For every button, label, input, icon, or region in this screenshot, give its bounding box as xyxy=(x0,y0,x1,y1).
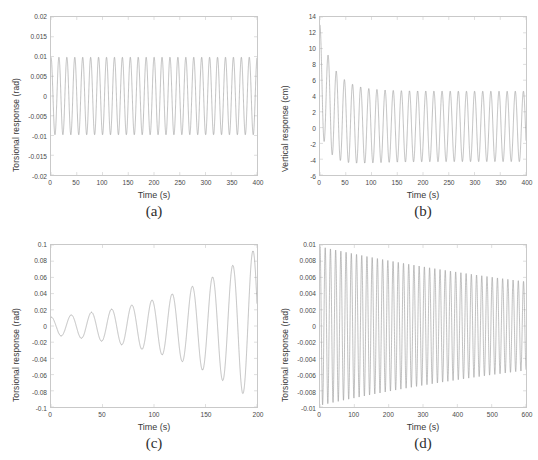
y-tick-label: 0.01 xyxy=(303,241,316,248)
x-tick-label: 200 xyxy=(148,179,159,186)
x-tick-label: 50 xyxy=(72,179,79,186)
x-tick-label: 0 xyxy=(317,411,321,418)
y-tick-label: 0.006 xyxy=(299,273,316,280)
subplot-a: 0.020.0150.010.0050-0.005-0.01-0.015-0.0… xyxy=(0,0,269,230)
y-tick-label: 0.02 xyxy=(34,306,47,313)
x-axis-label-d: Time (s) xyxy=(319,422,527,432)
y-tick-label: -4 xyxy=(310,157,316,164)
y-tick-label: 0 xyxy=(312,323,316,330)
y-tick-label: 0.008 xyxy=(299,257,316,264)
y-tick-label: 6 xyxy=(312,77,316,84)
waveform-line xyxy=(320,25,526,163)
x-tick-label: 200 xyxy=(383,411,394,418)
x-tick-label: 150 xyxy=(391,179,402,186)
axes-box-a xyxy=(50,16,258,176)
y-tick-label: -0.015 xyxy=(28,153,47,160)
x-tick-label: 400 xyxy=(521,179,532,186)
x-tick-label: 350 xyxy=(226,179,237,186)
y-tick-label: -0.08 xyxy=(32,388,47,395)
waveform-line xyxy=(320,247,526,405)
x-axis-label-b: Time (s) xyxy=(319,190,527,200)
y-tick-label: -0.06 xyxy=(32,372,47,379)
x-tick-label: 200 xyxy=(252,411,263,418)
x-tick-label: 0 xyxy=(48,179,52,186)
y-tick-label: 0 xyxy=(312,125,316,132)
y-tick-label: 0.02 xyxy=(34,13,47,20)
y-tick-label: 2 xyxy=(312,109,316,116)
axes-box-c xyxy=(50,244,258,408)
y-tick-label: 12 xyxy=(309,29,316,36)
y-tick-label: -0.1 xyxy=(36,405,47,412)
y-axis-label-a: Torsional response (rad) xyxy=(11,78,21,172)
y-tick-label: 0.005 xyxy=(30,73,47,80)
y-axis-label-c: Torsional response (rad) xyxy=(11,308,21,402)
y-tick-label: 0.004 xyxy=(299,290,316,297)
x-tick-label: 400 xyxy=(252,179,263,186)
x-tick-label: 200 xyxy=(417,179,428,186)
x-tick-label: 350 xyxy=(495,179,506,186)
y-tick-label: -2 xyxy=(310,141,316,148)
y-tick-label: -0.01 xyxy=(32,133,47,140)
x-tick-label: 600 xyxy=(521,411,532,418)
x-tick-label: 300 xyxy=(469,179,480,186)
x-tick-label: 0 xyxy=(48,411,52,418)
x-tick-label: 300 xyxy=(417,411,428,418)
panel-caption-c: (c) xyxy=(50,435,258,452)
x-tick-label: 500 xyxy=(487,411,498,418)
panel-caption-d: (d) xyxy=(319,435,527,452)
y-tick-label: 14 xyxy=(309,13,316,20)
x-axis-label-c: Time (s) xyxy=(50,422,258,432)
x-tick-label: 250 xyxy=(174,179,185,186)
x-tick-label: 50 xyxy=(341,179,348,186)
waveform-svg-b xyxy=(320,17,526,175)
subplot-c: 0.10.080.060.040.020-0.02-0.04-0.06-0.08… xyxy=(0,230,269,460)
y-axis-ticks-d: 0.010.0080.0060.0040.0020-0.002-0.004-0.… xyxy=(272,244,316,408)
y-tick-label: 0 xyxy=(43,93,47,100)
plot-area-d: 0.010.0080.0060.0040.0020-0.002-0.004-0.… xyxy=(269,230,538,460)
x-tick-label: 0 xyxy=(317,179,321,186)
waveform-svg-c xyxy=(51,245,257,407)
waveform-svg-a xyxy=(51,17,257,175)
y-axis-label-b: Vertical response (cm) xyxy=(280,85,290,172)
x-tick-label: 400 xyxy=(452,411,463,418)
y-axis-ticks-c: 0.10.080.060.040.020-0.02-0.04-0.06-0.08… xyxy=(3,244,47,408)
y-tick-label: -0.02 xyxy=(32,339,47,346)
panel-caption-b: (b) xyxy=(319,203,527,220)
x-tick-label: 100 xyxy=(96,179,107,186)
x-tick-label: 100 xyxy=(365,179,376,186)
y-tick-label: 0.04 xyxy=(34,290,47,297)
y-tick-label: 0 xyxy=(43,323,47,330)
y-axis-ticks-b: 14121086420-2-4-6 xyxy=(272,16,316,176)
subplot-d: 0.010.0080.0060.0040.0020-0.002-0.004-0.… xyxy=(269,230,538,460)
y-tick-label: -0.01 xyxy=(301,405,316,412)
y-axis-ticks-a: 0.020.0150.010.0050-0.005-0.01-0.015-0.0… xyxy=(3,16,47,176)
y-tick-label: 8 xyxy=(312,61,316,68)
waveform-line xyxy=(51,251,257,394)
y-tick-label: -6 xyxy=(310,173,316,180)
waveform-line xyxy=(51,57,257,134)
x-tick-label: 100 xyxy=(348,411,359,418)
y-tick-label: 0.015 xyxy=(30,33,47,40)
y-tick-label: 0.002 xyxy=(299,306,316,313)
plot-area-b: 14121086420-2-4-6 0501001502002503003504… xyxy=(269,0,538,230)
y-tick-label: -0.006 xyxy=(297,372,316,379)
subplot-b: 14121086420-2-4-6 0501001502002503003504… xyxy=(269,0,538,230)
waveform-svg-d xyxy=(320,245,526,407)
y-axis-label-d: Torsional response (rad) xyxy=(280,308,290,402)
y-tick-label: 10 xyxy=(309,45,316,52)
y-tick-label: -0.002 xyxy=(297,339,316,346)
x-tick-label: 100 xyxy=(148,411,159,418)
axes-box-b xyxy=(319,16,527,176)
y-tick-label: 0.01 xyxy=(34,53,47,60)
x-tick-label: 150 xyxy=(122,179,133,186)
y-tick-label: 0.06 xyxy=(34,273,47,280)
figure-panel-grid: 0.020.0150.010.0050-0.005-0.01-0.015-0.0… xyxy=(0,0,538,460)
plot-area-a: 0.020.0150.010.0050-0.005-0.01-0.015-0.0… xyxy=(0,0,269,230)
axes-box-d xyxy=(319,244,527,408)
y-tick-label: 0.08 xyxy=(34,257,47,264)
x-tick-label: 50 xyxy=(98,411,105,418)
y-tick-label: -0.04 xyxy=(32,355,47,362)
y-tick-label: 4 xyxy=(312,93,316,100)
x-tick-label: 300 xyxy=(200,179,211,186)
y-tick-label: -0.02 xyxy=(32,173,47,180)
